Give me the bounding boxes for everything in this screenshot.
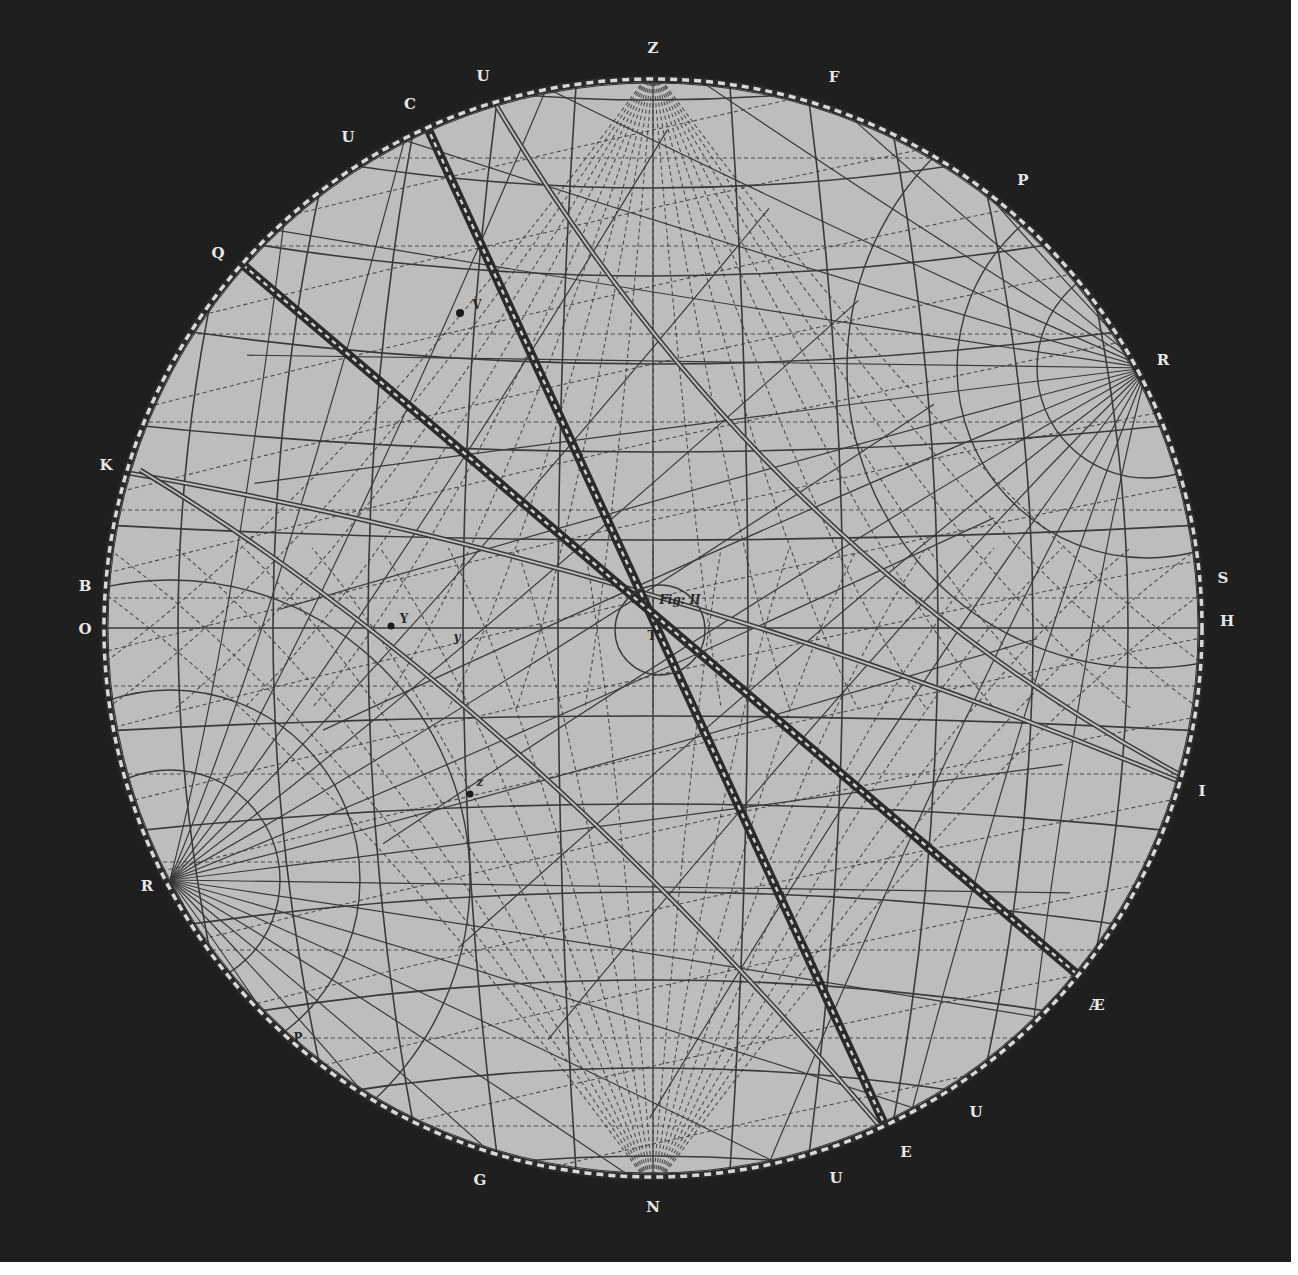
interior-label-t: T: [648, 629, 657, 643]
perimeter-label-c: C: [404, 95, 416, 113]
interior-label-y: Y: [400, 612, 409, 626]
interior-label-p2: P: [293, 1031, 302, 1045]
perimeter-label-u2: U: [341, 128, 354, 146]
perimeter-label-g: G: [474, 1171, 487, 1189]
star-v-icon: [456, 309, 464, 317]
star-y-icon: [388, 623, 395, 630]
interior-label-z: z: [477, 775, 484, 789]
perimeter-label-q: Q: [211, 244, 224, 262]
perimeter-label-ae: Æ: [1089, 996, 1105, 1014]
pole-ray: [157, 880, 180, 1262]
perimeter-label-e: E: [900, 1143, 911, 1161]
engraving-plate: ZUCUFPQRKBOSHIRÆUEUGN Fig: IITVYyzP: [0, 0, 1291, 1262]
perimeter-label-z: Z: [648, 39, 659, 57]
perimeter-label-i: I: [1198, 782, 1205, 800]
perimeter-label-s: S: [1218, 569, 1229, 587]
star-z-icon: [467, 791, 474, 798]
perimeter-label-f: F: [829, 68, 840, 86]
perimeter-label-u3: U: [969, 1103, 982, 1121]
interior-label-v: V: [472, 298, 481, 312]
perimeter-label-r1: R: [1157, 351, 1169, 369]
perimeter-label-u1: U: [476, 67, 489, 85]
perimeter-label-o: O: [78, 620, 91, 638]
interior-label-y: y: [454, 630, 461, 644]
perimeter-label-p1: P: [1017, 171, 1028, 189]
perimeter-label-n: N: [646, 1198, 660, 1216]
perimeter-label-u4: U: [829, 1169, 842, 1187]
perimeter-label-b: B: [79, 577, 92, 595]
stereographic-projection: [0, 0, 1291, 1262]
perimeter-label-k: K: [99, 456, 112, 474]
interior-label-fig: Fig: II: [659, 593, 700, 607]
perimeter-label-h: H: [1220, 612, 1234, 630]
perimeter-label-r2: R: [141, 877, 153, 895]
pole-ray: [1137, 0, 1160, 368]
